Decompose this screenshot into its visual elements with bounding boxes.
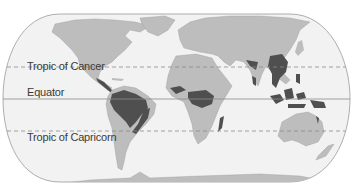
equator-label: Equator <box>27 86 64 98</box>
tropic-of-cancer-label: Tropic of Cancer <box>27 60 105 72</box>
tropic-of-capricorn-label: Tropic of Capricorn <box>27 131 116 143</box>
